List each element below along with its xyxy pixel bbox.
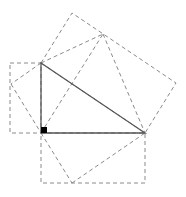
right-triangle	[41, 63, 145, 133]
pythagorean-diagram	[0, 0, 186, 197]
dashed-line-l-to-c	[11, 84, 41, 133]
dashed-line-c-to-m	[41, 133, 72, 183]
upper-parallelogram	[41, 13, 176, 133]
left-rectangle	[10, 63, 41, 133]
dashed-line-m-to-b	[72, 133, 145, 183]
dashed-lines-group	[11, 34, 145, 183]
dashed-line-a-to-l	[11, 63, 41, 84]
right-angle-marker	[41, 127, 47, 133]
